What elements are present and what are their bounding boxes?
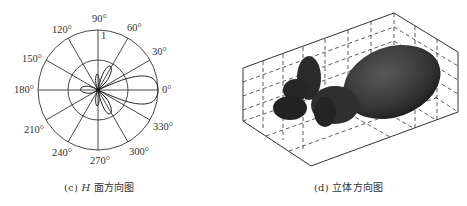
angle-label-270: 270° (90, 155, 110, 166)
angle-label-0: 0° (162, 84, 171, 95)
angle-label-60: 60° (127, 22, 142, 33)
caption-prefix: (d) (314, 182, 329, 193)
angle-label-120: 120° (52, 24, 72, 35)
angle-label-210: 210° (24, 124, 44, 135)
caption-italic: H (81, 182, 90, 193)
figure-c-caption: (c) H 面方向图 (64, 179, 135, 194)
3d-pattern-figure: (d) 立体方向图 (230, 0, 467, 206)
angle-label-300: 300° (129, 146, 149, 157)
caption-text: 面方向图 (94, 182, 135, 193)
caption-prefix: (c) (64, 182, 78, 193)
radial-label: 1 (101, 30, 106, 41)
origin-dot (96, 88, 100, 92)
figure-d-caption: (d) 立体方向图 (314, 179, 383, 194)
h-plane-polar-figure: 90° 1 60° 30° 0° 330° 300° 270° 240° 210… (0, 0, 230, 206)
caption-text: 立体方向图 (332, 182, 383, 193)
angle-label-240: 240° (52, 147, 72, 158)
angle-label-150: 150° (22, 53, 42, 64)
angle-label-330: 330° (153, 121, 173, 132)
angle-label-30: 30° (152, 46, 167, 57)
angle-label-90: 90° (92, 13, 107, 24)
polar-plot (0, 0, 230, 206)
angle-label-180: 180° (14, 84, 34, 95)
3d-plot (230, 0, 467, 206)
